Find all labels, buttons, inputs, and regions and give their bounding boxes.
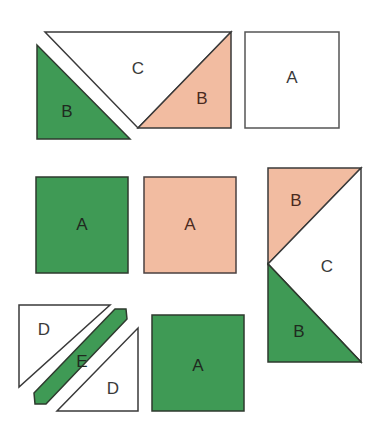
label-right-c: C (321, 257, 333, 276)
label-mid-a-peach: A (184, 215, 196, 234)
label-top-b-peach: B (196, 89, 207, 108)
label-bottom-d-upper: D (38, 320, 50, 339)
label-top-a-white: A (286, 68, 298, 87)
label-bottom-e: E (76, 352, 87, 371)
label-bottom-a-green: A (192, 356, 204, 375)
quilt-diagram: C B B A A A B C B D E D (0, 0, 373, 422)
label-top-b-green: B (61, 102, 72, 121)
label-top-c: C (132, 59, 144, 78)
piece-mid-a-peach: A (144, 177, 236, 273)
label-mid-a-green: A (76, 215, 88, 234)
label-bottom-d-lower: D (107, 379, 119, 398)
label-right-b-green: B (293, 322, 304, 341)
label-right-b-peach: B (290, 191, 301, 210)
piece-top-a-white: A (245, 32, 339, 128)
piece-mid-a-green: A (36, 177, 128, 273)
piece-bottom-a-green: A (152, 315, 244, 411)
